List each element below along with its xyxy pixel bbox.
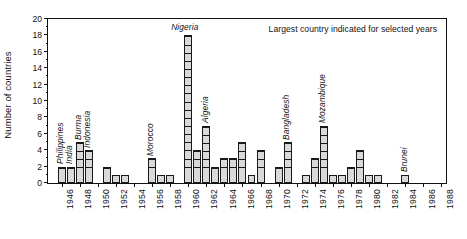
bar-unit-cell bbox=[285, 143, 291, 151]
bar-unit-cell bbox=[348, 175, 354, 182]
bar bbox=[184, 35, 192, 183]
x-axis-tick bbox=[188, 183, 189, 187]
bar-unit-cell bbox=[203, 143, 209, 151]
x-axis-tick-label: 1968 bbox=[264, 189, 274, 209]
bar-unit-cell bbox=[230, 167, 236, 175]
y-axis-tick-label: 2 bbox=[37, 162, 42, 172]
bar bbox=[229, 158, 237, 183]
bar-unit-cell bbox=[185, 53, 191, 61]
plot-inner: 0246810121416182019461948195019521954195… bbox=[48, 19, 446, 183]
x-axis-tick bbox=[423, 183, 424, 187]
y-axis-title: Number of countries bbox=[2, 0, 16, 190]
bar-unit-cell bbox=[357, 151, 363, 159]
y-axis-tick-label: 0 bbox=[37, 178, 42, 188]
bar-unit-cell bbox=[276, 175, 282, 182]
x-axis-tick-label: 1952 bbox=[119, 189, 129, 209]
x-axis-tick bbox=[387, 183, 388, 187]
y-axis-tick-minor bbox=[46, 26, 49, 27]
y-axis-tick-label: 12 bbox=[32, 80, 42, 90]
bar-unit-cell bbox=[149, 159, 155, 167]
bar-unit-cell bbox=[258, 175, 264, 182]
chart-annotation-note: Largest country indicated for selected y… bbox=[269, 24, 437, 34]
bar-unit-cell bbox=[185, 102, 191, 110]
bar bbox=[338, 175, 346, 183]
bar-unit-cell bbox=[185, 36, 191, 44]
bar-unit-cell bbox=[185, 142, 191, 150]
x-axis-tick bbox=[98, 183, 99, 187]
x-axis-tick-label: 1960 bbox=[191, 189, 201, 209]
bar-unit-cell bbox=[86, 151, 92, 159]
bar-unit-cell bbox=[402, 176, 408, 182]
x-axis-tick-label: 1954 bbox=[137, 189, 147, 209]
bar-unit-cell bbox=[185, 175, 191, 182]
y-axis-tick-minor bbox=[46, 108, 49, 109]
bar-unit-cell bbox=[185, 150, 191, 158]
x-axis-tick bbox=[405, 183, 406, 187]
bar-unit-cell bbox=[212, 168, 218, 176]
x-axis-tick bbox=[62, 183, 63, 187]
bar-unit-cell bbox=[339, 176, 345, 182]
x-axis-tick-label: 1982 bbox=[390, 189, 400, 209]
y-axis-tick-minor bbox=[46, 141, 49, 142]
bar-unit-cell bbox=[366, 176, 372, 182]
x-axis-tick bbox=[224, 183, 225, 187]
x-axis-tick bbox=[297, 183, 298, 187]
bar-unit-cell bbox=[68, 175, 74, 182]
bar-unit-cell bbox=[357, 175, 363, 182]
bar-unit-cell bbox=[86, 159, 92, 167]
bar-unit-cell bbox=[230, 175, 236, 182]
x-axis-tick-label: 1986 bbox=[427, 189, 437, 209]
bar-unit-cell bbox=[285, 175, 291, 182]
x-axis-tick bbox=[170, 183, 171, 187]
x-axis-tick-label: 1974 bbox=[318, 189, 328, 209]
bar-unit-cell bbox=[321, 159, 327, 167]
y-axis-tick-major bbox=[44, 133, 48, 134]
y-axis-tick-minor bbox=[46, 92, 49, 93]
bar-unit-cell bbox=[149, 167, 155, 175]
bar bbox=[58, 167, 66, 183]
bar bbox=[257, 150, 265, 183]
bar-unit-cell bbox=[239, 175, 245, 182]
y-axis-tick-major bbox=[44, 34, 48, 35]
bar-unit-cell bbox=[321, 143, 327, 151]
x-axis-tick-label: 1950 bbox=[101, 189, 111, 209]
bar-unit-cell bbox=[194, 151, 200, 159]
bar-unit-cell bbox=[239, 151, 245, 159]
x-axis-tick bbox=[152, 183, 153, 187]
x-axis-tick-label: 1958 bbox=[173, 189, 183, 209]
bar bbox=[211, 167, 219, 183]
bar-unit-cell bbox=[203, 151, 209, 159]
bar bbox=[347, 167, 355, 183]
x-axis-tick-label: 1966 bbox=[246, 189, 256, 209]
x-axis-tick-label: 1984 bbox=[408, 189, 418, 209]
x-axis-tick-label: 1976 bbox=[336, 189, 346, 209]
bar-country-label: Algeria bbox=[200, 96, 210, 123]
x-axis-tick-label: 1970 bbox=[282, 189, 292, 209]
bar-unit-cell bbox=[86, 167, 92, 175]
bar-country-label: Morocco bbox=[145, 123, 155, 156]
y-axis-tick-label: 4 bbox=[37, 145, 42, 155]
bar-unit-cell bbox=[321, 167, 327, 175]
bar-unit-cell bbox=[185, 159, 191, 167]
bar-unit-cell bbox=[375, 176, 381, 182]
bar bbox=[148, 158, 156, 183]
y-axis-tick-label: 14 bbox=[32, 63, 42, 73]
x-axis-tick bbox=[369, 183, 370, 187]
x-axis-tick-label: 1956 bbox=[155, 189, 165, 209]
bar bbox=[112, 175, 120, 183]
bar-unit-cell bbox=[185, 118, 191, 126]
bar bbox=[356, 150, 364, 183]
y-axis-tick-major bbox=[44, 84, 48, 85]
bar bbox=[67, 167, 75, 183]
bar-unit-cell bbox=[321, 135, 327, 143]
bar-unit-cell bbox=[221, 175, 227, 182]
bar bbox=[284, 142, 292, 183]
x-axis-tick bbox=[315, 183, 316, 187]
bar bbox=[202, 126, 210, 183]
x-axis-tick-label: 1978 bbox=[354, 189, 364, 209]
bar bbox=[311, 158, 319, 183]
bar-unit-cell bbox=[185, 126, 191, 134]
bar-unit-cell bbox=[185, 93, 191, 101]
bar-unit-cell bbox=[357, 159, 363, 167]
bar-country-label: Bangladesh bbox=[281, 94, 291, 139]
